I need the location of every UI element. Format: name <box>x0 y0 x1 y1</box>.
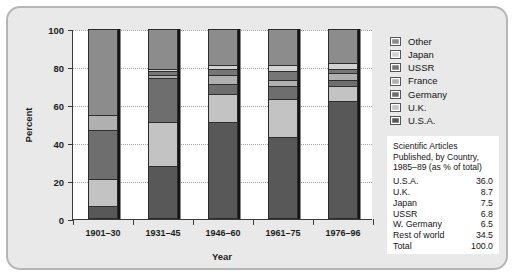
legend-item[interactable]: Japan <box>390 48 447 61</box>
table-title-line: 1985–89 (as % of total) <box>393 162 493 173</box>
table-cell-label: USSR <box>393 209 417 220</box>
x-tick-mark <box>133 219 134 225</box>
bar-segment[interactable] <box>328 101 358 219</box>
bar-segment[interactable] <box>148 75 178 79</box>
x-tick-mark <box>193 219 194 225</box>
y-tick-label: 80 <box>53 63 64 74</box>
bar-stack[interactable] <box>88 29 118 219</box>
table-cell-label: Japan <box>393 198 417 209</box>
table-cell-value: 36.0 <box>476 176 493 187</box>
bar-segment[interactable] <box>88 179 118 206</box>
y-tick-label: 0 <box>59 215 64 226</box>
x-tick-mark <box>73 219 74 225</box>
bar-segment[interactable] <box>328 69 358 73</box>
table-row: U.K.8.7 <box>393 187 493 198</box>
bar-segment[interactable] <box>268 86 298 99</box>
bar-segment[interactable] <box>208 29 238 65</box>
bar-segment[interactable] <box>328 63 358 69</box>
x-tick-label: 1961–75 <box>265 228 300 238</box>
legend-swatch-icon <box>390 37 401 46</box>
bar-segment[interactable] <box>208 94 238 123</box>
legend-label: Other <box>408 37 432 47</box>
legend-label: Japan <box>408 50 434 60</box>
table-row: U.S.A.36.0 <box>393 176 493 187</box>
bar-segment[interactable] <box>148 78 178 122</box>
bar-segment[interactable] <box>208 65 238 69</box>
bar-segment[interactable] <box>328 73 358 81</box>
y-tick-mark <box>68 68 73 69</box>
bar-stack[interactable] <box>148 29 178 219</box>
table-row: USSR6.8 <box>393 209 493 220</box>
legend-label: France <box>408 76 438 86</box>
bar-segment[interactable] <box>268 99 298 137</box>
bar-segment[interactable] <box>328 80 358 86</box>
table-cell-label: Total <box>393 241 412 252</box>
y-tick-mark <box>68 106 73 107</box>
bar-segment[interactable] <box>328 86 358 101</box>
legend-item[interactable]: Germany <box>390 88 447 101</box>
legend-item[interactable]: France <box>390 75 447 88</box>
table-cell-label: Rest of world <box>393 230 444 241</box>
table-title: Scientific ArticlesPublished, by Country… <box>393 141 493 173</box>
table-cell-value: 34.5 <box>476 230 493 241</box>
figure-frame: Percent Year 0204060801001901–301931–451… <box>6 6 508 270</box>
plot-area: 0204060801001901–301931–451946–601961–75… <box>72 30 372 220</box>
legend-item[interactable]: U.K. <box>390 101 447 114</box>
x-tick-label: 1931–45 <box>145 228 180 238</box>
y-tick-label: 40 <box>53 139 64 150</box>
bar-segment[interactable] <box>148 122 178 166</box>
bar-stack[interactable] <box>328 29 358 219</box>
legend-item[interactable]: Other <box>390 35 447 48</box>
bar-stack[interactable] <box>268 29 298 219</box>
legend-label: Germany <box>408 90 447 100</box>
table-row: Total100.0 <box>393 241 493 252</box>
x-tick-label: 1901–30 <box>85 228 120 238</box>
bar-segment[interactable] <box>88 115 118 130</box>
bar-segment[interactable] <box>148 29 178 69</box>
bar-segment[interactable] <box>208 84 238 94</box>
x-axis-label: Year <box>212 251 232 262</box>
bar-segment[interactable] <box>148 69 178 71</box>
bar-segment[interactable] <box>208 75 238 85</box>
table-title-line: Published, by Country, <box>393 152 493 163</box>
chart-legend: OtherJapanUSSRFranceGermanyU.K.U.S.A. <box>390 35 447 127</box>
bar-segment[interactable] <box>88 29 118 115</box>
table-cell-value: 6.8 <box>481 209 493 220</box>
bar-segment[interactable] <box>88 206 118 219</box>
bar-segment[interactable] <box>148 71 178 75</box>
bar-segment[interactable] <box>268 71 298 81</box>
legend-item[interactable]: USSR <box>390 61 447 74</box>
legend-swatch-icon <box>390 77 401 86</box>
bar-segment[interactable] <box>328 29 358 63</box>
bar-segment[interactable] <box>148 166 178 219</box>
bar-segment[interactable] <box>208 69 238 75</box>
legend-label: U.S.A. <box>408 116 435 126</box>
bar-segment[interactable] <box>268 65 298 71</box>
legend-label: U.K. <box>408 103 426 113</box>
data-table: Scientific ArticlesPublished, by Country… <box>387 136 499 254</box>
legend-swatch-icon <box>390 116 401 125</box>
legend-label: USSR <box>408 63 434 73</box>
table-cell-value: 100.0 <box>471 241 493 252</box>
y-tick-label: 60 <box>53 101 64 112</box>
x-tick-label: 1946–60 <box>205 228 240 238</box>
bar-segment[interactable] <box>88 130 118 179</box>
table-cell-label: W. Germany <box>393 219 442 230</box>
legend-swatch-icon <box>390 103 401 112</box>
table-title-line: Scientific Articles <box>393 141 493 152</box>
bar-segment[interactable] <box>268 29 298 65</box>
legend-item[interactable]: U.S.A. <box>390 114 447 127</box>
bar-stack[interactable] <box>208 29 238 219</box>
table-cell-value: 7.5 <box>481 198 493 209</box>
table-row: W. Germany6.5 <box>393 219 493 230</box>
legend-swatch-icon <box>390 50 401 59</box>
legend-swatch-icon <box>390 90 401 99</box>
bar-segment[interactable] <box>208 122 238 219</box>
bar-segment[interactable] <box>268 137 298 219</box>
y-tick-mark <box>68 144 73 145</box>
table-row: Japan7.5 <box>393 198 493 209</box>
y-tick-label: 20 <box>53 177 64 188</box>
bar-segment[interactable] <box>268 80 298 86</box>
x-tick-label: 1976–96 <box>325 228 360 238</box>
y-tick-label: 100 <box>48 25 64 36</box>
